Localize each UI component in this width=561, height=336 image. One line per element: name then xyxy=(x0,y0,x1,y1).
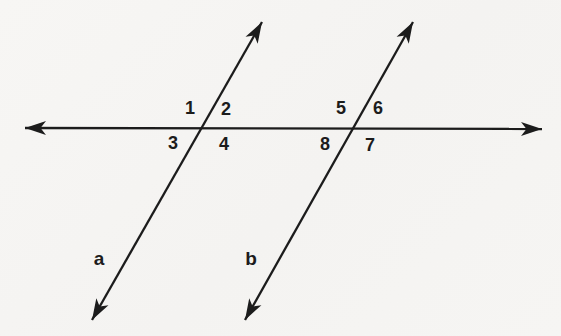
angle-label-5: 5 xyxy=(336,98,346,118)
angle-label-2: 2 xyxy=(221,99,231,119)
diagram-labels: 12345687ab xyxy=(94,98,383,269)
diagram-lines xyxy=(25,22,542,320)
geometry-diagram: 12345687ab xyxy=(0,0,561,336)
transversal-line xyxy=(25,128,542,129)
line-a xyxy=(92,22,262,320)
angle-label-8: 8 xyxy=(320,134,330,154)
angle-label-6: 6 xyxy=(373,98,383,118)
line-label-b: b xyxy=(245,248,257,269)
angle-label-7: 7 xyxy=(365,135,375,155)
angle-label-3: 3 xyxy=(168,133,178,153)
angle-label-4: 4 xyxy=(219,134,229,154)
line-label-a: a xyxy=(94,248,105,269)
scanned-geometry-page: 12345687ab xyxy=(0,0,561,336)
line-b xyxy=(245,22,413,320)
angle-label-1: 1 xyxy=(185,98,195,118)
